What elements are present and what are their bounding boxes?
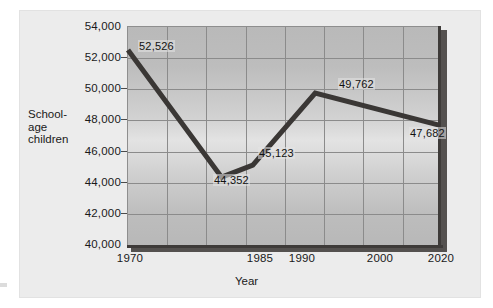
x-axis-line — [127, 245, 443, 248]
vertical-gridline — [324, 27, 325, 245]
data-label: 52,526 — [138, 40, 175, 52]
y-tick-label: 40,000 — [61, 238, 121, 250]
vertical-gridline — [246, 27, 247, 245]
x-tick-label: 1990 — [282, 252, 322, 264]
vertical-gridline — [167, 27, 168, 245]
data-label: 47,682 — [409, 127, 446, 139]
horizontal-gridline — [128, 89, 440, 90]
vertical-gridline — [285, 27, 286, 245]
y-tick-label: 52,000 — [61, 51, 121, 63]
y-tick-label: 54,000 — [61, 20, 121, 32]
x-tick-label: 1985 — [240, 252, 280, 264]
plot-shadow-right — [441, 30, 447, 252]
data-label: 44,352 — [213, 174, 250, 186]
x-tick-label: 1970 — [106, 252, 154, 264]
x-tick-label: 2020 — [418, 252, 464, 264]
vertical-gridline — [403, 27, 404, 245]
data-label: 49,762 — [338, 78, 375, 90]
horizontal-gridline — [128, 120, 440, 121]
x-axis-title: Year — [0, 275, 493, 287]
data-label: 45,123 — [258, 147, 295, 159]
y-tick-label: 42,000 — [61, 207, 121, 219]
vertical-gridline — [363, 27, 364, 245]
vertical-gridline — [206, 27, 207, 245]
y-tick-label: 48,000 — [61, 113, 121, 125]
horizontal-gridline — [128, 58, 440, 59]
plot-area — [127, 26, 441, 246]
y-tick-label: 46,000 — [61, 145, 121, 157]
horizontal-gridline — [128, 214, 440, 215]
y-tick-label: 44,000 — [61, 176, 121, 188]
chart-figure: School- age children 54,000 52,000 50,00… — [0, 0, 493, 308]
horizontal-gridline — [128, 183, 440, 184]
y-tick-label: 50,000 — [61, 82, 121, 94]
x-tick-label: 2000 — [358, 252, 402, 264]
